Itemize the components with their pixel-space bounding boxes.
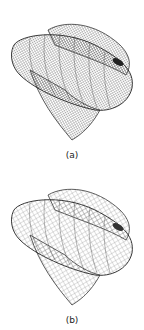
mesh-render-a: [0, 0, 144, 150]
figure-panel-b: (b): [0, 165, 144, 330]
figure-panel-a: (a): [0, 0, 144, 165]
mesh-render-b: [0, 165, 144, 315]
caption-b: (b): [0, 315, 144, 325]
caption-a: (a): [0, 150, 144, 160]
